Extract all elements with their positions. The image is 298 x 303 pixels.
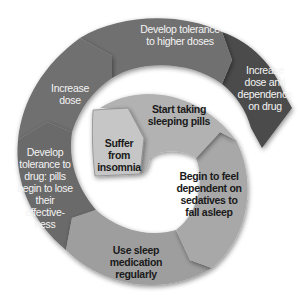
label-increase-dose: Increase dose xyxy=(46,82,94,106)
label-tolerance-to-drug: Develop tolerance to drug: pills begin t… xyxy=(16,146,74,230)
addiction-spiral-diagram: Increase dose and dependence on drug Dev… xyxy=(0,0,298,303)
label-increase-dose-and-dependence: Increase dose and dependence on drug xyxy=(236,64,294,112)
label-tolerance-higher-doses: Develop tolerance to higher doses xyxy=(140,23,220,47)
label-start-taking-pills: Start taking sleeping pills xyxy=(146,103,212,127)
label-use-sleep-medication: Use sleep medication regularly xyxy=(104,244,168,280)
label-begin-to-feel-dependent: Begin to feel dependent on sedatives to … xyxy=(176,170,242,218)
label-suffer-from-insomnia: Suffer from insomnia xyxy=(96,137,142,173)
